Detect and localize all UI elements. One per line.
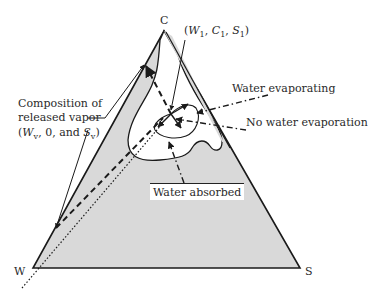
- vapor-label-line3: (Wv, 0, and Sv): [18, 126, 100, 143]
- paren-close: ): [245, 24, 249, 37]
- vertex-label-c: C: [160, 14, 168, 27]
- paren-close: ): [95, 126, 99, 139]
- water-absorbed-label: Water absorbed: [150, 183, 244, 200]
- vapor-label-line1: Composition of: [18, 97, 102, 110]
- point-w: W: [188, 24, 199, 37]
- water-evaporating-label: Water evaporating: [232, 82, 335, 95]
- point-s: S: [232, 24, 240, 37]
- sep: ,: [205, 24, 212, 37]
- vapor-w: W: [22, 126, 33, 139]
- vapor-label-line2: released vapor: [18, 111, 101, 124]
- vapor-s: S: [83, 126, 91, 139]
- no-water-evaporation-label: No water evaporation: [246, 116, 368, 129]
- vertex-label-w: W: [14, 265, 25, 278]
- point-c: C: [212, 24, 220, 37]
- vapor-mid: , 0, and: [38, 126, 83, 139]
- point-label: (W1, C1, S1): [184, 24, 249, 41]
- vertex-label-s: S: [305, 265, 313, 278]
